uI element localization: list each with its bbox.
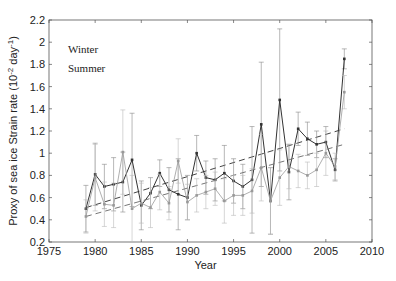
- data-point: [149, 206, 152, 209]
- data-point: [131, 159, 134, 162]
- data-point: [112, 204, 115, 207]
- data-point: [306, 174, 309, 177]
- y-tick-label: 1.2: [30, 125, 45, 137]
- y-tick-label: 1: [39, 147, 45, 159]
- data-point: [251, 190, 254, 193]
- data-point: [232, 194, 235, 197]
- data-point: [315, 143, 318, 146]
- x-tick-label: 2010: [360, 245, 384, 257]
- data-point: [269, 200, 272, 203]
- legend-summer: Summer: [68, 62, 106, 74]
- x-axis-label: Year: [194, 259, 217, 271]
- data-point: [278, 99, 281, 102]
- data-point: [158, 191, 161, 194]
- data-point: [122, 151, 125, 154]
- data-point: [177, 193, 180, 196]
- data-point: [315, 169, 318, 172]
- data-point: [297, 127, 300, 130]
- data-point: [195, 194, 198, 197]
- y-tick-label: 2: [39, 36, 45, 48]
- data-point: [94, 176, 97, 179]
- data-point: [297, 170, 300, 173]
- data-point: [223, 200, 226, 203]
- legend: WinterSummer: [68, 43, 106, 74]
- axes-box: 197519801985199019952000200520100.20.40.…: [6, 14, 385, 271]
- data-point: [177, 160, 180, 163]
- y-axis-label: Proxy of sea ice Strain rate (10-2 day-1…: [6, 36, 20, 226]
- data-point: [214, 187, 217, 190]
- x-tick-label: 1980: [83, 245, 107, 257]
- data-point: [260, 123, 263, 126]
- data-point: [325, 152, 328, 155]
- data-point: [278, 176, 281, 179]
- y-tick-label: 2.2: [30, 14, 45, 26]
- chart: 197519801985199019952000200520100.20.40.…: [0, 0, 396, 281]
- y-tick-label: 0.2: [30, 236, 45, 248]
- data-point: [168, 202, 171, 205]
- data-point: [103, 203, 106, 206]
- x-tick-label: 1990: [175, 245, 199, 257]
- data-point: [343, 91, 346, 94]
- data-point: [343, 58, 346, 61]
- data-point: [85, 215, 88, 218]
- data-point: [334, 165, 337, 168]
- data-point: [288, 165, 291, 168]
- data-point: [131, 207, 134, 210]
- y-tick-label: 0.6: [30, 192, 45, 204]
- y-tick-label: 0.8: [30, 169, 45, 181]
- data-point: [186, 201, 189, 204]
- data-point: [140, 202, 143, 205]
- x-tick-label: 2000: [267, 245, 291, 257]
- x-tick-label: 1985: [129, 245, 153, 257]
- data-point: [205, 191, 208, 194]
- y-tick-label: 1.6: [30, 81, 45, 93]
- y-tick-label: 1.8: [30, 58, 45, 70]
- data-point: [223, 172, 226, 175]
- data-point: [242, 194, 245, 197]
- y-tick-label: 0.4: [30, 214, 45, 226]
- x-tick-label: 2005: [314, 245, 338, 257]
- x-tick-label: 1995: [221, 245, 245, 257]
- data-point: [306, 137, 309, 140]
- data-point: [195, 152, 198, 155]
- legend-winter: Winter: [68, 43, 98, 55]
- plot-area: [83, 29, 346, 242]
- y-tick-label: 1.4: [30, 103, 45, 115]
- data-point: [260, 166, 263, 169]
